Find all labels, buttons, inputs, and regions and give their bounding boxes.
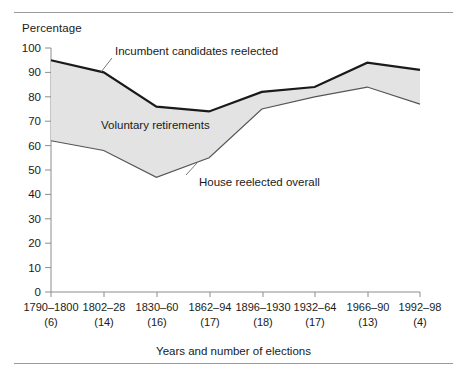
x-tick-label: 1992–98 <box>399 301 442 313</box>
x-tick-label: 1830–60 <box>136 301 179 313</box>
x-tick-sublabel: (4) <box>413 316 426 328</box>
x-tick-sublabel: (6) <box>44 316 57 328</box>
y-tick-label: 40 <box>28 188 41 200</box>
x-tick-label: 1862–94 <box>189 301 232 313</box>
x-tick-sublabel: (14) <box>94 316 114 328</box>
plot-area: 100 90 80 70 60 50 40 30 20 10 0 <box>0 0 467 373</box>
x-tick-sublabel: (17) <box>200 316 220 328</box>
chart-figure: Percentage 100 90 80 70 60 50 <box>0 0 467 373</box>
x-tick-sublabel: (16) <box>147 316 167 328</box>
x-tick-label: 1802–28 <box>83 301 126 313</box>
y-axis-ticks <box>45 48 51 292</box>
x-tick-label: 1966–90 <box>347 301 390 313</box>
y-tick-label: 60 <box>28 140 41 152</box>
x-tick-label: 1790–1800 <box>23 301 78 313</box>
x-axis-title: Years and number of elections <box>0 345 467 357</box>
y-tick-label: 20 <box>28 237 41 249</box>
x-axis-tick-labels: 1790–1800 (6) 1802–28 (14) 1830–60 (16) … <box>23 301 441 328</box>
incumbent-leader-line <box>101 58 112 72</box>
y-tick-label: 0 <box>35 286 41 298</box>
x-tick-sublabel: (18) <box>253 316 273 328</box>
x-tick-sublabel: (13) <box>358 316 378 328</box>
y-tick-label: 70 <box>28 115 41 127</box>
x-tick-label: 1932–64 <box>294 301 337 313</box>
y-tick-label: 100 <box>22 42 41 54</box>
annotation-incumbent: Incumbent candidates reelected <box>115 45 278 57</box>
x-axis-ticks <box>51 292 420 297</box>
x-tick-label: 1896–1930 <box>235 301 290 313</box>
y-tick-label: 80 <box>28 91 41 103</box>
y-tick-label: 90 <box>28 66 41 78</box>
y-axis-tick-labels: 100 90 80 70 60 50 40 30 20 10 0 <box>22 42 41 298</box>
x-tick-sublabel: (17) <box>305 316 325 328</box>
annotation-voluntary: Voluntary retirements <box>101 119 210 131</box>
y-tick-label: 50 <box>28 164 41 176</box>
annotation-house: House reelected overall <box>199 176 320 188</box>
y-tick-label: 30 <box>28 213 41 225</box>
y-tick-label: 10 <box>28 262 41 274</box>
